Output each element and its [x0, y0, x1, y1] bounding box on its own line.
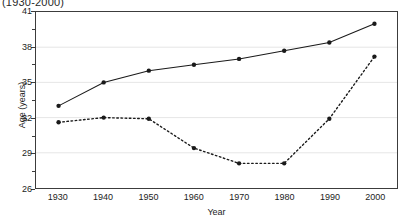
x-tick-label: 1930	[48, 192, 68, 202]
x-tick-label: 1970	[229, 192, 249, 202]
y-tick-label: 38	[6, 42, 32, 52]
y-axis-tick-labels: 262932353841	[0, 11, 32, 189]
data-point	[327, 117, 331, 121]
plot-area	[35, 11, 398, 189]
data-point	[237, 57, 241, 61]
data-point	[147, 68, 151, 72]
gridlines	[36, 47, 397, 153]
data-point	[56, 104, 60, 108]
data-point	[101, 80, 105, 84]
data-point	[147, 117, 151, 121]
y-tick-label: 26	[6, 184, 32, 194]
data-point	[372, 54, 376, 58]
data-point	[192, 146, 196, 150]
series-line-solid-series	[59, 24, 375, 106]
x-tick-label: 1950	[138, 192, 158, 202]
x-tick-label: 1990	[320, 192, 340, 202]
data-point	[56, 120, 60, 124]
data-point	[327, 40, 331, 44]
data-point	[282, 49, 286, 53]
data-point	[282, 161, 286, 165]
plot-canvas	[36, 12, 397, 188]
y-tick-label: 41	[6, 6, 32, 16]
x-axis-label: Year	[35, 207, 398, 217]
y-tick-label: 35	[6, 77, 32, 87]
data-point	[192, 63, 196, 67]
x-tick-label: 1980	[275, 192, 295, 202]
x-axis-tick-labels: 19301940195019601970198019902000	[35, 192, 398, 206]
data-point	[237, 161, 241, 165]
series-line-dashed-series	[59, 57, 375, 164]
chart-figure: (1930-2000) Age (years) 262932353841 193…	[0, 0, 403, 224]
x-tick-label: 1960	[184, 192, 204, 202]
x-tick-label: 2000	[365, 192, 385, 202]
data-point	[101, 115, 105, 119]
x-tick-label: 1940	[93, 192, 113, 202]
y-tick-label: 32	[6, 113, 32, 123]
data-point	[372, 22, 376, 26]
series-layer	[56, 22, 376, 166]
y-tick-label: 29	[6, 148, 32, 158]
